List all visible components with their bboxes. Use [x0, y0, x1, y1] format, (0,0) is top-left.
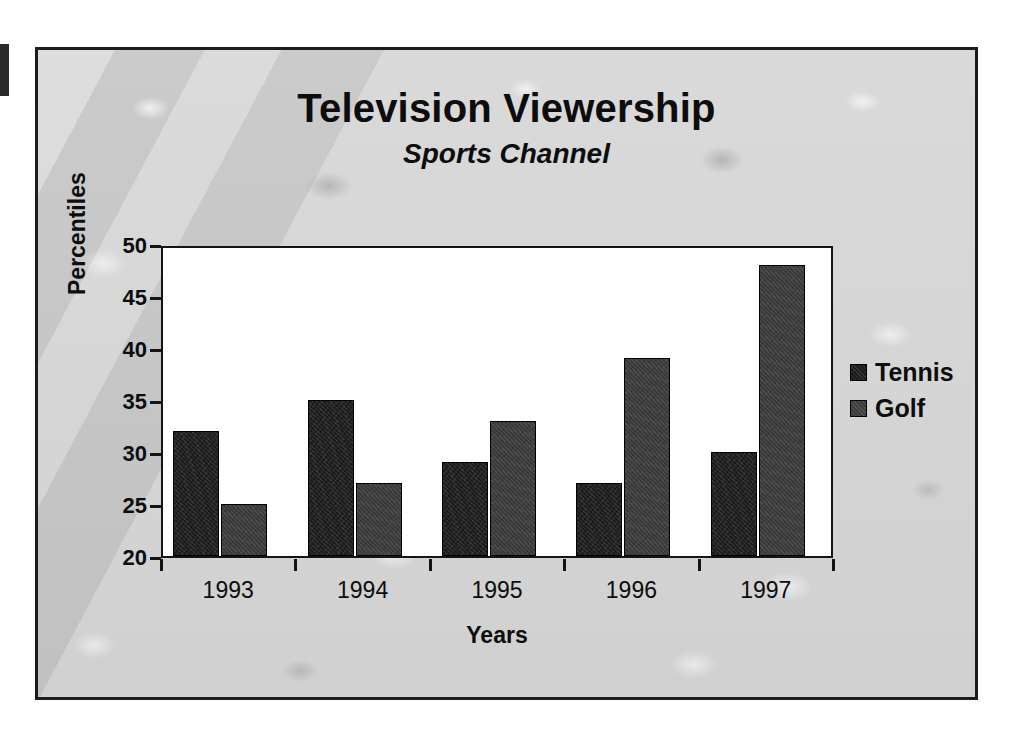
y-axis-tick-label: 25 [89, 493, 147, 519]
y-axis-tick-mark [150, 349, 161, 352]
bar-golf-1995 [490, 421, 536, 556]
bar-tennis-1994 [308, 400, 354, 556]
y-axis-tick-mark [150, 245, 161, 248]
x-axis-tick-label: 1997 [740, 577, 791, 604]
bar-golf-1993 [221, 504, 267, 556]
y-axis-tick-label: 45 [89, 285, 147, 311]
x-axis-tick-mark [563, 559, 566, 571]
x-axis-tick-label: 1993 [203, 577, 254, 604]
bars-layer [163, 248, 831, 556]
edge-artifact [0, 44, 9, 96]
bar-tennis-1997 [711, 452, 757, 556]
y-axis-tick-mark [150, 505, 161, 508]
y-axis-tick-label: 35 [89, 389, 147, 415]
x-axis-tick-mark [160, 559, 163, 571]
bar-golf-1997 [759, 265, 805, 556]
chart-frame: Television Viewership Sports Channel Per… [35, 47, 978, 700]
x-axis-tick-mark [429, 559, 432, 571]
x-axis-tick-mark [832, 559, 835, 571]
chart-legend: TennisGolf [850, 358, 954, 430]
bar-golf-1994 [356, 483, 402, 556]
x-axis-tick-label: 1995 [471, 577, 522, 604]
y-axis-tick-mark [150, 453, 161, 456]
chart-title: Television Viewership [38, 86, 975, 131]
bar-tennis-1993 [173, 431, 219, 556]
y-axis-tick-label: 40 [89, 337, 147, 363]
y-axis-tick-label: 50 [89, 233, 147, 259]
bar-tennis-1996 [576, 483, 622, 556]
x-axis-tick-mark [698, 559, 701, 571]
legend-label: Tennis [875, 358, 954, 387]
x-axis-tick-mark [294, 559, 297, 571]
chart-subtitle: Sports Channel [38, 138, 975, 170]
legend-entry-tennis: Tennis [850, 358, 954, 387]
y-axis-tick-label: 30 [89, 441, 147, 467]
legend-label: Golf [875, 394, 925, 423]
x-axis-title: Years [161, 622, 833, 649]
plot-area [161, 246, 833, 558]
legend-swatch-icon [850, 364, 867, 381]
y-axis-tick-mark [150, 401, 161, 404]
y-axis-tick-label: 20 [89, 545, 147, 571]
x-axis-tick-label: 1994 [337, 577, 388, 604]
y-axis-title: Percentiles [64, 172, 91, 295]
legend-entry-golf: Golf [850, 394, 954, 423]
bar-tennis-1995 [442, 462, 488, 556]
y-axis-tick-mark [150, 297, 161, 300]
legend-swatch-icon [850, 400, 867, 417]
x-axis-tick-label: 1996 [606, 577, 657, 604]
bar-golf-1996 [624, 358, 670, 556]
